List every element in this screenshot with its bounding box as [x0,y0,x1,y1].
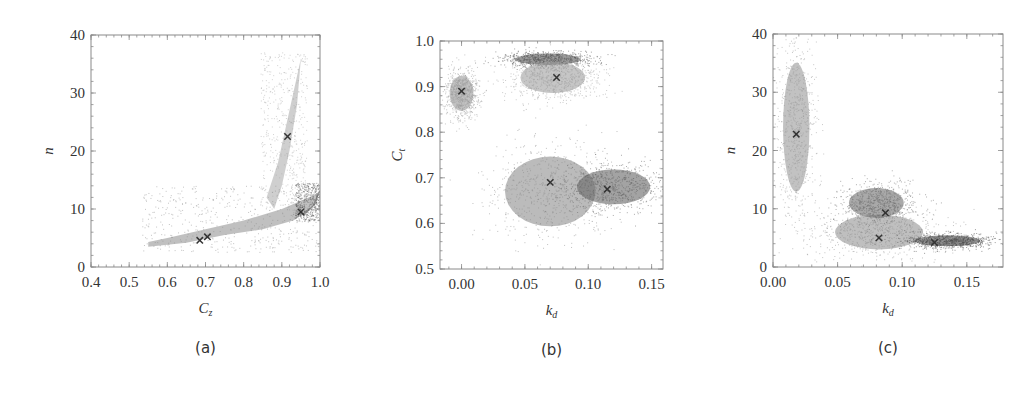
y-tick-label: 10 [70,201,85,217]
x-axis-label: kd [882,300,895,318]
panel-caption: (c) [878,339,898,357]
y-axis-label: Ct [389,148,407,161]
y-tick-label: 0 [760,259,768,275]
x-tick-label: 0.9 [272,274,291,290]
x-tick-label: 0.00 [448,276,474,292]
figure-canvas: 0.40.50.60.70.80.91.0010203040Czn(a) 0.0… [0,0,1034,393]
x-tick-label: 0.05 [512,276,538,292]
y-tick-label: 1.0 [415,33,434,49]
x-tick-label: 0.00 [760,274,786,290]
y-tick-label: 0.7 [415,170,434,186]
x-tick-label: 0.7 [196,274,215,290]
panel-b: 0.000.050.100.150.50.60.70.80.91.0kdCt(b… [389,33,695,359]
panel-caption: (b) [541,341,562,359]
x-axis-label: Cz [199,300,213,318]
x-tick-label: 0.15 [638,276,664,292]
x-tick-label: 0.6 [158,274,177,290]
y-axis-label: n [722,147,738,155]
y-tick-label: 0.6 [415,215,434,231]
y-tick-label: 10 [752,201,767,217]
y-tick-label: 0.8 [415,124,434,140]
x-tick-label: 0.10 [575,276,601,292]
x-tick-label: 0.8 [234,274,253,290]
x-tick-label: 0.15 [954,274,980,290]
y-tick-label: 20 [752,143,767,159]
y-axis-label: n [40,147,56,155]
y-tick-label: 0.9 [415,79,434,95]
y-tick-label: 20 [70,143,85,159]
scatter-points [747,7,1022,277]
panel-a: 0.40.50.60.70.80.91.0010203040Czn(a) [40,27,329,357]
x-tick-label: 1.0 [311,274,330,290]
y-tick-label: 30 [752,84,767,100]
x-tick-label: 0.10 [889,274,915,290]
x-tick-label: 0.05 [824,274,850,290]
panel-caption: (a) [195,339,216,357]
x-tick-label: 0.4 [82,274,101,290]
y-tick-label: 40 [752,26,767,42]
x-axis-label: kd [546,302,559,320]
scatter-points [437,44,694,265]
cluster-region [783,63,809,192]
x-tick-label: 0.5 [120,274,139,290]
y-tick-label: 0 [78,259,86,275]
y-tick-label: 40 [70,27,85,43]
scatter-points [142,52,327,253]
y-tick-label: 30 [70,85,85,101]
y-tick-label: 0.5 [415,261,434,277]
panel-c: 0.000.050.100.15010203040kdn(c) [722,7,1023,357]
